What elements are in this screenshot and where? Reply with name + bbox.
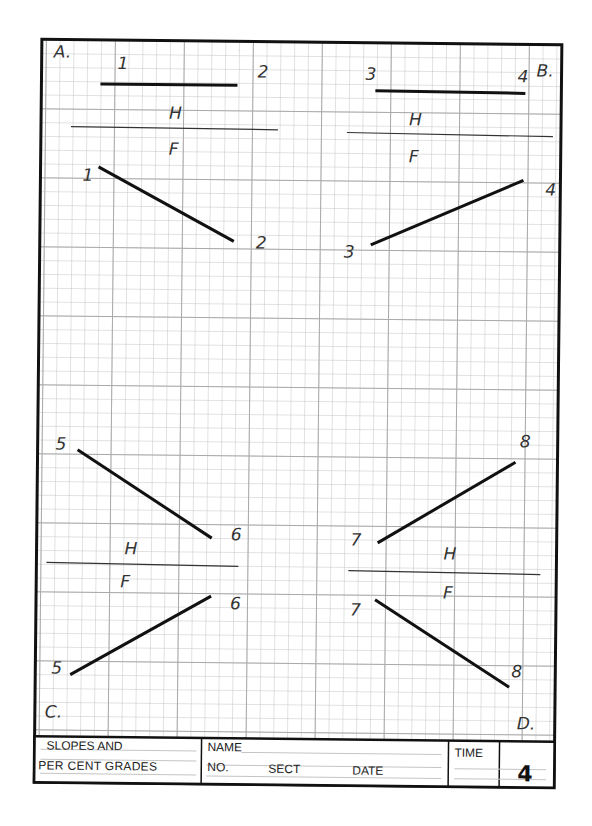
point-1-front-label: 1 [82, 165, 93, 185]
h-label: H [443, 544, 456, 564]
point-4-top-label: 4 [517, 66, 528, 86]
point-6-top-label: 6 [231, 524, 242, 544]
point-4-front-label: 4 [545, 180, 556, 200]
point-5-front-label: 5 [51, 657, 62, 677]
point-2-front-label: 2 [256, 233, 267, 253]
point-5-top-label: 5 [56, 433, 67, 453]
title-line-1: SLOPES AND [46, 738, 123, 753]
h-label: H [124, 538, 137, 558]
quadrant-d-label: D. [517, 713, 536, 733]
labels-layer: A. 1 2 H F 1 2 3 4 B. H F 3 4 5 6 H F 5 … [0, 0, 592, 826]
h-label: H [409, 109, 422, 129]
date-field-label: DATE [352, 764, 383, 778]
point-3-front-label: 3 [344, 241, 355, 261]
no-field-label: NO. [207, 760, 228, 774]
f-label: F [120, 571, 130, 591]
title-line-2: PER CENT GRADES [38, 758, 157, 773]
quadrant-a-label: A. [53, 41, 72, 61]
sect-field-label: SECT [268, 762, 301, 776]
f-label: F [443, 583, 453, 603]
point-2-top-label: 2 [257, 62, 268, 82]
point-8-top-label: 8 [520, 431, 531, 451]
point-8-front-label: 8 [511, 661, 522, 681]
point-7-top-label: 7 [351, 530, 362, 550]
point-3-top-label: 3 [365, 64, 376, 84]
quadrant-c-label: C. [45, 701, 62, 721]
h-label: H [169, 103, 182, 123]
point-7-front-label: 7 [350, 600, 361, 620]
point-6-front-label: 6 [230, 593, 241, 613]
name-field-label: NAME [207, 740, 242, 754]
time-field-label: TIME [454, 746, 483, 760]
f-label: F [409, 146, 419, 166]
point-1-top-label: 1 [118, 53, 129, 73]
drawing-sheet: A. 1 2 H F 1 2 3 4 B. H F 3 4 5 6 H F 5 … [0, 0, 592, 826]
sheet-number: 4 [517, 761, 533, 786]
f-label: F [169, 139, 179, 159]
quadrant-b-label: B. [536, 61, 553, 81]
